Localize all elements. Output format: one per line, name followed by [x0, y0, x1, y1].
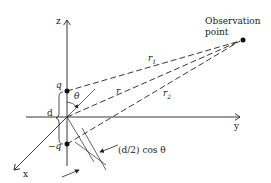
theta-label: θ	[74, 92, 79, 101]
observation-point	[241, 38, 246, 43]
charge-negative-label: −q	[48, 142, 61, 151]
path-diff-arrow-1	[100, 145, 118, 152]
path-diff-arrow-2	[62, 170, 79, 177]
r2-label: r2	[163, 89, 171, 100]
r1-line	[67, 41, 240, 91]
separation-label: d	[47, 109, 53, 118]
dipole-diagram	[0, 0, 271, 183]
y-axis-label: y	[234, 122, 239, 131]
path-difference-label: (d/2) cos θ	[118, 146, 166, 155]
observation-label-line2: point	[205, 28, 228, 37]
perp-line-dash	[82, 128, 106, 170]
x-axis-label: x	[23, 170, 28, 179]
z-axis-label: z	[56, 17, 61, 26]
r1-label: r1	[148, 54, 156, 65]
r-label: r	[116, 87, 120, 96]
charge-positive-label: q	[56, 81, 62, 90]
observation-label-line1: Observation	[205, 17, 261, 26]
theta-arc	[67, 102, 78, 108]
charge-positive	[65, 89, 70, 94]
charge-negative	[65, 142, 70, 147]
perp-line-origin	[67, 117, 94, 162]
r-line	[67, 41, 240, 117]
separation-brace	[56, 92, 63, 144]
